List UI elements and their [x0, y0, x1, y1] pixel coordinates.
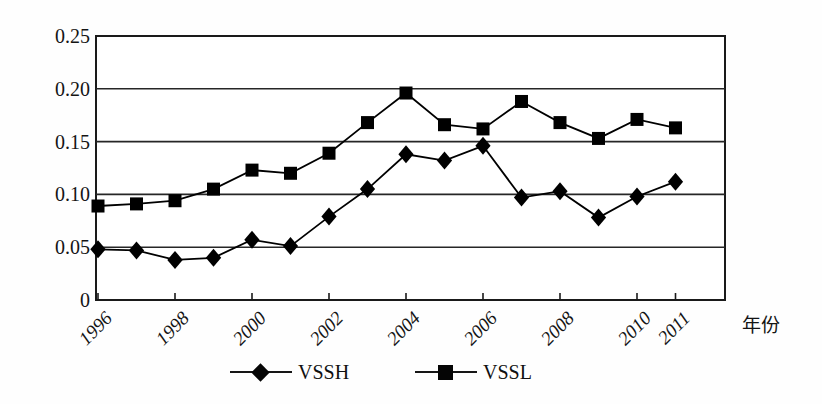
x-tick-label: 2011 — [644, 308, 693, 357]
line-chart-figure: 00.050.100.150.200.25 199619982000200220… — [0, 0, 822, 404]
legend-label-vssl: VSSL — [483, 362, 532, 382]
legend-line-vssl — [415, 363, 477, 381]
x-tick-label: 1998 — [144, 308, 193, 357]
legend-line-vssh — [230, 363, 292, 381]
x-tick-label: 2002 — [298, 308, 347, 357]
x-axis-tick-labels: 199619982000200220042006200820102011 — [0, 0, 822, 404]
diamond-marker-icon — [251, 363, 269, 381]
x-tick-label: 2006 — [452, 308, 501, 357]
chart-page: 00.050.100.150.200.25 199619982000200220… — [0, 0, 822, 404]
x-tick-label: 2010 — [606, 308, 655, 357]
legend-label-vssh: VSSH — [298, 362, 349, 382]
x-tick-label: 2000 — [221, 308, 270, 357]
chart-legend: VSSH VSSL — [230, 358, 590, 388]
x-axis-title: 年份 — [742, 316, 780, 336]
x-tick-label: 1996 — [67, 308, 116, 357]
square-marker-icon — [438, 365, 453, 380]
x-tick-label: 2004 — [375, 308, 424, 357]
legend-entry-vssh: VSSH — [230, 358, 349, 386]
x-tick-label: 2008 — [529, 308, 578, 357]
legend-entry-vssl: VSSL — [415, 358, 532, 386]
